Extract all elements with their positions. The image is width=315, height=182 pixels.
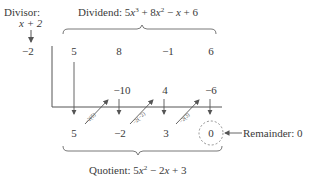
multiply-diagonal-arrow [130,100,153,124]
multiply-diagonal-arrow [85,100,108,124]
quotient-brace [63,146,222,155]
remainder-dashed-circle [199,121,223,145]
dividend-brace [63,25,216,34]
multiply-diagonal-arrow [176,100,199,124]
synthetic-division-lines [0,0,315,182]
